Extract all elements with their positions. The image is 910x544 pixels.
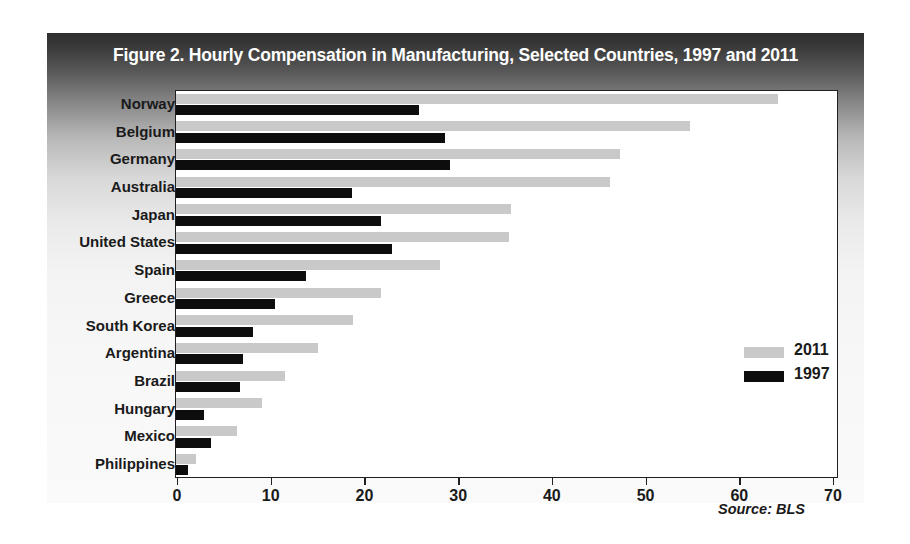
category-label-japan: Japan: [45, 206, 175, 223]
category-label-argentina: Argentina: [45, 344, 175, 361]
category-label-australia: Australia: [45, 178, 175, 195]
x-tick-30: [458, 478, 459, 485]
bar-australia-2011: [176, 177, 610, 187]
x-tick-20: [364, 478, 365, 485]
category-label-hungary: Hungary: [45, 400, 175, 417]
category-label-belgium: Belgium: [45, 123, 175, 140]
bar-brazil-1997: [176, 382, 240, 392]
x-tick-40: [552, 478, 553, 485]
bar-row: [176, 340, 837, 368]
x-tick-label-70: 70: [811, 487, 855, 505]
bar-belgium-2011: [176, 121, 690, 131]
bar-philippines-2011: [176, 454, 196, 464]
category-axis-labels: NorwayBelgiumGermanyAustraliaJapanUnited…: [39, 90, 175, 478]
category-label-united-states: United States: [45, 233, 175, 250]
legend-label-2011: 2011: [794, 341, 829, 359]
bar-row: [176, 202, 837, 230]
category-label-mexico: Mexico: [45, 427, 175, 444]
x-tick-50: [646, 478, 647, 485]
bar-south-korea-2011: [176, 315, 353, 325]
x-tick-label-60: 60: [717, 487, 761, 505]
category-label-south-korea: South Korea: [45, 317, 175, 334]
x-tick-label-30: 30: [436, 487, 480, 505]
category-label-philippines: Philippines: [45, 455, 175, 472]
bar-japan-1997: [176, 216, 381, 226]
bar-row: [176, 119, 837, 147]
x-tick-10: [271, 478, 272, 485]
category-label-greece: Greece: [45, 289, 175, 306]
category-label-norway: Norway: [45, 95, 175, 112]
bar-greece-1997: [176, 299, 275, 309]
legend-label-1997: 1997: [794, 365, 830, 383]
bar-philippines-1997: [176, 465, 188, 475]
x-tick-60: [739, 478, 740, 485]
bar-row: [176, 313, 837, 341]
bar-hungary-2011: [176, 398, 262, 408]
bar-row: [176, 396, 837, 424]
bar-mexico-1997: [176, 438, 211, 448]
bar-argentina-2011: [176, 343, 318, 353]
bar-row: [176, 91, 837, 119]
bar-australia-1997: [176, 188, 352, 198]
bar-brazil-2011: [176, 371, 285, 381]
x-tick-label-10: 10: [249, 487, 293, 505]
bar-row: [176, 146, 837, 174]
bar-united-states-2011: [176, 232, 509, 242]
figure-panel: Figure 2. Hourly Compensation in Manufac…: [47, 33, 864, 503]
plot-area: 20111997 Source: BLS: [175, 90, 838, 478]
bar-row: [176, 424, 837, 452]
bar-mexico-2011: [176, 426, 237, 436]
bar-germany-1997: [176, 160, 450, 170]
bar-spain-1997: [176, 271, 306, 281]
legend-swatch-1997: [744, 371, 784, 382]
x-tick-label-50: 50: [624, 487, 668, 505]
x-tick-label-20: 20: [342, 487, 386, 505]
x-axis: 010203040506070: [175, 478, 838, 512]
bar-row: [176, 174, 837, 202]
bar-row: [176, 368, 837, 396]
bar-row: [176, 451, 837, 479]
bar-united-states-1997: [176, 244, 392, 254]
bar-japan-2011: [176, 204, 511, 214]
bar-hungary-1997: [176, 410, 204, 420]
bar-row: [176, 230, 837, 258]
x-tick-label-0: 0: [155, 487, 199, 505]
bar-row: [176, 285, 837, 313]
category-label-germany: Germany: [45, 150, 175, 167]
x-tick-0: [177, 478, 178, 485]
x-tick-label-40: 40: [530, 487, 574, 505]
category-label-spain: Spain: [45, 261, 175, 278]
bar-spain-2011: [176, 260, 440, 270]
bar-greece-2011: [176, 288, 381, 298]
bar-argentina-1997: [176, 354, 243, 364]
x-tick-70: [833, 478, 834, 485]
figure-title: Figure 2. Hourly Compensation in Manufac…: [47, 45, 864, 66]
bar-south-korea-1997: [176, 327, 253, 337]
bar-belgium-1997: [176, 133, 445, 143]
bar-norway-2011: [176, 94, 778, 104]
legend-swatch-2011: [744, 347, 784, 358]
bar-germany-2011: [176, 149, 620, 159]
category-label-brazil: Brazil: [45, 372, 175, 389]
bar-row: [176, 257, 837, 285]
bar-norway-1997: [176, 105, 419, 115]
